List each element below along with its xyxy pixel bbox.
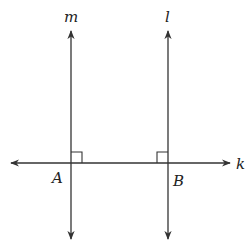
- right-angle-mark-a: [71, 152, 82, 163]
- label-l: l: [165, 8, 170, 26]
- label-m: m: [64, 8, 78, 26]
- diagram-canvas: m l k A B: [0, 0, 249, 240]
- label-point-b: B: [172, 172, 184, 190]
- right-angle-mark-b: [157, 152, 168, 163]
- perpendicular-lines-diagram: m l k A B: [0, 0, 249, 240]
- label-k: k: [236, 155, 245, 173]
- label-point-a: A: [50, 169, 63, 187]
